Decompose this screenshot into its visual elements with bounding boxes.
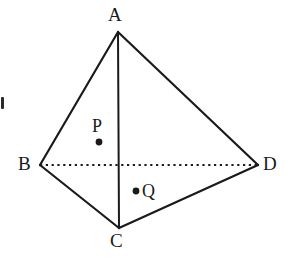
point-q-dot	[133, 188, 140, 195]
edge-ad	[118, 32, 258, 165]
vertex-label-b: B	[18, 154, 31, 173]
vertex-label-c: C	[110, 231, 123, 250]
point-p-dot	[96, 139, 103, 146]
tetrahedron-canvas	[0, 0, 289, 267]
vertex-label-a: A	[108, 5, 122, 24]
edge-cd	[119, 165, 258, 228]
edge-bc	[40, 165, 119, 228]
edge-ac	[118, 32, 119, 228]
point-label-p: P	[92, 117, 102, 135]
vertex-label-d: D	[263, 154, 277, 173]
tetrahedron-figure: A B C D P Q	[0, 0, 289, 267]
scan-edge-artifact	[1, 97, 4, 109]
edge-ab	[40, 32, 118, 165]
point-label-q: Q	[142, 182, 155, 200]
